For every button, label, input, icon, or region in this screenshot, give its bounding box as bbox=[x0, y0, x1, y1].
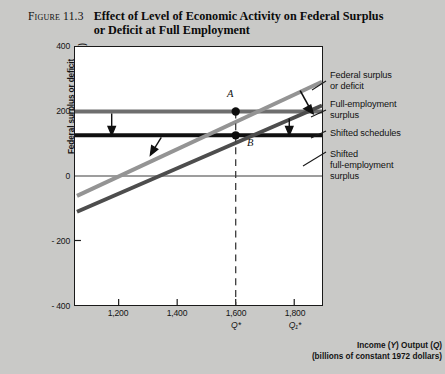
legend-item-shifted-schedules: Shifted schedules bbox=[330, 128, 401, 139]
legend-label-line1: Shifted bbox=[330, 149, 393, 160]
x-tick-marks bbox=[119, 299, 295, 305]
x-axis-label-line2: (billions of constant 1972 dollars) bbox=[232, 351, 442, 362]
point-b-label: B bbox=[247, 137, 253, 148]
plot-svg bbox=[75, 47, 322, 305]
line-federal-surplus-or-deficit bbox=[77, 82, 322, 196]
y-tick-neg400: - 400 bbox=[26, 301, 70, 311]
arrow-down-left bbox=[108, 113, 115, 135]
y-tick-neg200: - 200 bbox=[26, 236, 70, 246]
x-tick-1200: 1,200 bbox=[88, 308, 148, 318]
legend-label-line3: surplus bbox=[330, 171, 393, 182]
figure-container: Figure 11.3 Effect of Level of Economic … bbox=[0, 0, 445, 374]
x-tick-1600: 1,600 bbox=[206, 308, 266, 318]
point-a-label: A bbox=[227, 88, 233, 99]
x-tick-q1star: Q₁* bbox=[265, 320, 325, 330]
legend-label-line2: full-employment bbox=[330, 160, 393, 171]
y-tick-200: 200 bbox=[26, 106, 70, 116]
legend-label-line1: Shifted schedules bbox=[330, 128, 401, 139]
legend-label-line1: Full-employment bbox=[330, 99, 396, 110]
data-point-b bbox=[232, 131, 240, 139]
y-axis-ticks: 400 200 0 - 200 - 400 bbox=[22, 46, 70, 306]
arrow-shift-schedules bbox=[150, 137, 161, 155]
figure-title-block: Figure 11.3 Effect of Level of Economic … bbox=[28, 10, 428, 37]
y-tick-0: 0 bbox=[26, 171, 70, 181]
line-shifted-schedules bbox=[77, 106, 322, 212]
legend-label-line2: or deficit bbox=[330, 81, 392, 92]
x-tick-qstar: Q* bbox=[206, 320, 266, 330]
x-axis-label: Income (Y) Output (Q) (billions of const… bbox=[232, 340, 442, 362]
legend-item-full-employment-surplus: Full-employment surplus bbox=[330, 99, 396, 121]
legend-label-line2: surplus bbox=[330, 110, 396, 121]
legend-item-federal-surplus-or-deficit: Federal surplus or deficit bbox=[330, 70, 392, 92]
data-point-a bbox=[232, 107, 240, 115]
legend-item-shifted-full-employment-surplus: Shifted full-employment surplus bbox=[330, 149, 393, 181]
x-tick-1400: 1,400 bbox=[147, 308, 207, 318]
page-title: Effect of Level of Economic Activity on … bbox=[94, 10, 394, 37]
x-tick-1800: 1,800 bbox=[265, 308, 325, 318]
plot-area: A B bbox=[74, 46, 323, 306]
legend-label-line1: Federal surplus bbox=[330, 70, 392, 81]
x-axis-label-line1: Income (Y) Output (Q) bbox=[232, 340, 442, 351]
y-tick-400: 400 bbox=[26, 41, 70, 51]
